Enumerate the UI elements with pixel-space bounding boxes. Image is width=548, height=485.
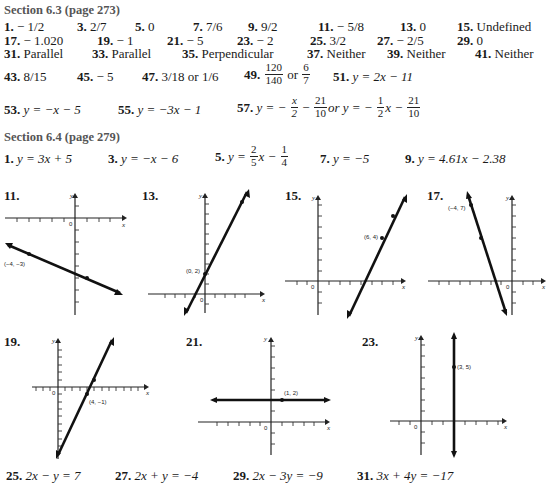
answer-6-4-29: 29. 2x − 3y = −9 xyxy=(233,469,323,482)
svg-text:x: x xyxy=(121,221,126,229)
answer-37: 37. Neither xyxy=(307,47,365,60)
svg-text:0: 0 xyxy=(414,424,418,430)
answer-49: 49. 120140 or 67 xyxy=(244,62,311,86)
answer-6-4-7: 7. y = −5 xyxy=(320,152,369,165)
svg-text:y: y xyxy=(311,194,316,202)
svg-text:y: y xyxy=(198,192,203,200)
section-6-4-heading: Section 6.4 (page 279) xyxy=(4,131,120,144)
answer-6-4-5: 5. y = 25x − 14 xyxy=(215,144,289,168)
answer-7: 7. 7/6 xyxy=(193,20,223,33)
answer-6-4-9: 9. y = 4.61x − 2.38 xyxy=(405,152,506,165)
svg-text:y: y xyxy=(414,334,419,342)
answer-47: 47. 3/18 or 1/6 xyxy=(142,70,219,83)
svg-text:(−4, 7): (−4, 7) xyxy=(448,205,466,211)
svg-text:y: y xyxy=(51,337,56,345)
svg-text:x: x xyxy=(326,424,331,432)
answer-45: 45. − 5 xyxy=(77,70,114,83)
answer-33: 33. Parallel xyxy=(92,47,151,60)
section-6-3-heading: Section 6.3 (page 273) xyxy=(4,4,120,17)
answer-35: 35. Perpendicular xyxy=(182,47,274,60)
svg-text:0: 0 xyxy=(52,390,56,396)
svg-text:0: 0 xyxy=(200,297,204,303)
graph-17: yx0 (−4, 7) xyxy=(400,185,548,320)
graph-15: yx0 (6, 4) xyxy=(270,185,410,320)
graph-19: yx0 (4, −1) xyxy=(0,325,170,460)
answer-39: 39. Neither xyxy=(387,47,445,60)
answer-6-4-27: 27. 2x + y = −4 xyxy=(115,469,198,482)
svg-text:x: x xyxy=(541,283,546,291)
answer-11: 11. − 5/8 xyxy=(318,20,364,33)
answer-5: 5. 0 xyxy=(135,20,155,33)
svg-text:0: 0 xyxy=(69,221,73,227)
svg-text:(0, 2): (0, 2) xyxy=(186,268,200,274)
graph-13: yx0 (0, 2) xyxy=(130,185,270,320)
svg-text:0: 0 xyxy=(506,284,510,290)
answer-43: 43. 8/15 xyxy=(4,70,47,83)
answer-31: 31. Parallel xyxy=(4,47,63,60)
svg-text:(3, 5): (3, 5) xyxy=(457,364,471,370)
answer-53: 53. y = −x − 5 xyxy=(4,103,81,116)
svg-text:(4, −1): (4, −1) xyxy=(89,399,107,405)
svg-text:(−4, −3): (−4, −3) xyxy=(4,261,25,267)
answer-6-4-1: 1. y = 3x + 5 xyxy=(4,152,72,165)
answer-13: 13. 0 xyxy=(400,20,426,33)
answer-6-4-25: 25. 2x − y = 7 xyxy=(6,469,81,482)
svg-text:x: x xyxy=(261,296,266,304)
svg-text:(6, 4): (6, 4) xyxy=(364,234,378,240)
svg-text:x: x xyxy=(145,389,150,397)
answer-6-4-3: 3. y = −x − 6 xyxy=(108,152,178,165)
answer-6-4-31: 31. 3x + 4y = −17 xyxy=(357,469,453,482)
answer-15: 15. Undefined xyxy=(457,20,531,33)
graph-23: yx0 (3, 5) xyxy=(350,325,548,460)
answer-3: 3. 2/7 xyxy=(77,20,107,33)
svg-text:0: 0 xyxy=(264,425,268,431)
svg-text:y: y xyxy=(263,335,268,343)
answer-41: 41. Neither xyxy=(475,47,533,60)
svg-text:(1, 2): (1, 2) xyxy=(284,390,298,396)
answer-57: 57. y = − x2 − 2110or y = − 12x − 2110 xyxy=(237,95,421,119)
answer-1: 1. − 1/2 xyxy=(4,20,44,33)
svg-text:0: 0 xyxy=(311,284,315,290)
answer-55: 55. y = −3x − 1 xyxy=(118,103,201,116)
svg-text:y: y xyxy=(505,194,510,202)
svg-text:x: x xyxy=(503,423,508,431)
answer-9: 9. 9/2 xyxy=(248,20,278,33)
answer-51: 51. y = 2x − 11 xyxy=(333,70,413,83)
graph-11: yx0 (−4, −3) xyxy=(0,185,130,320)
graph-21: yx0 (1, 2) xyxy=(170,325,350,460)
